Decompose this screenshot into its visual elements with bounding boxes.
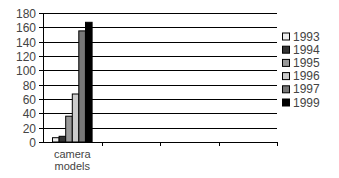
y-tick-label: 0 bbox=[29, 136, 36, 150]
y-tick-label: 80 bbox=[23, 79, 37, 93]
legend: 199319941995199619971999 bbox=[283, 30, 321, 110]
bar-1995 bbox=[66, 116, 73, 142]
bars bbox=[53, 22, 93, 142]
y-tick-label: 160 bbox=[16, 21, 36, 35]
legend-label-1997: 1997 bbox=[293, 82, 320, 96]
x-axis bbox=[43, 142, 278, 146]
category-labels: cameramodels bbox=[54, 148, 92, 172]
legend-label-1996: 1996 bbox=[293, 69, 320, 83]
y-tick-label: 60 bbox=[23, 93, 37, 107]
y-tick-label: 140 bbox=[16, 36, 36, 50]
bar-chart: 020406080100120140160180 cameramodels 19… bbox=[0, 0, 339, 178]
y-axis: 020406080100120140160180 bbox=[16, 7, 44, 150]
legend-swatch-1994 bbox=[283, 46, 290, 53]
y-tick-label: 180 bbox=[16, 7, 36, 21]
y-tick-label: 20 bbox=[23, 122, 37, 136]
y-tick-label: 120 bbox=[16, 50, 36, 64]
y-tick-label: 100 bbox=[16, 64, 36, 78]
legend-label-1995: 1995 bbox=[293, 56, 320, 70]
bar-1993 bbox=[53, 138, 60, 142]
legend-swatch-1996 bbox=[283, 73, 290, 80]
category-label: cameramodels bbox=[54, 148, 92, 172]
y-tick-label: 40 bbox=[23, 107, 37, 121]
legend-swatch-1999 bbox=[283, 99, 290, 106]
bar-1997 bbox=[79, 31, 86, 142]
legend-label-1993: 1993 bbox=[293, 30, 320, 44]
bar-1999 bbox=[86, 22, 93, 142]
legend-label-1999: 1999 bbox=[293, 96, 320, 110]
legend-label-1994: 1994 bbox=[293, 43, 320, 57]
legend-swatch-1995 bbox=[283, 59, 290, 66]
legend-swatch-1997 bbox=[283, 86, 290, 93]
legend-swatch-1993 bbox=[283, 33, 290, 40]
bar-1994 bbox=[59, 136, 66, 142]
bar-1996 bbox=[72, 94, 79, 142]
